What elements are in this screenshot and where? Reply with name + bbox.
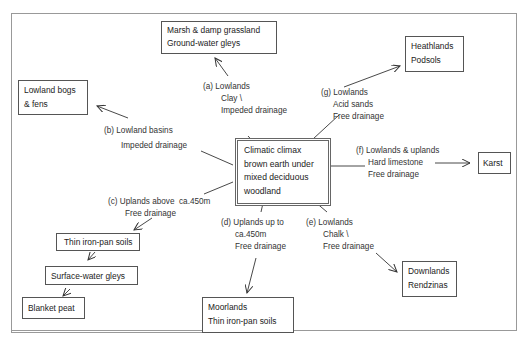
condition-line: Free drainage xyxy=(356,170,419,179)
condition-line: Free drainage xyxy=(306,242,374,251)
condition-line: Chalk xyxy=(306,230,344,239)
outcome-line: Karst xyxy=(483,155,505,171)
outcome-box-thin-iron-pan: Thin iron-pan soils xyxy=(56,233,140,251)
arrow-d-to-moorlands xyxy=(247,258,256,293)
branch-label-d: (d) Uplands up to ca.450m Free drainage xyxy=(221,217,286,253)
outcome-line: & fens xyxy=(24,97,82,111)
outcome-box-karst: Karst xyxy=(478,152,511,174)
outcome-box-heathlands: Heathlands Podsols xyxy=(405,36,464,72)
outcome-line: Rendzinas xyxy=(408,278,451,292)
outcome-line: Surface-water gleys xyxy=(51,269,132,283)
branch-label-g: (g) Lowlands Acid sands Free drainage xyxy=(321,87,384,123)
outcome-box-bogs: Lowland bogs & fens xyxy=(18,80,88,115)
center-line: Climatic climax xyxy=(244,144,322,158)
condition-line: Uplands up to xyxy=(233,218,284,227)
arrow-ironpan-to-gleys xyxy=(88,252,95,260)
condition-line: Impeded drainage xyxy=(104,141,187,150)
condition-line: Free drainage xyxy=(321,112,384,121)
arrow-a-to-marsh xyxy=(215,58,228,76)
outcome-box-blanket-peat: Blanket peat xyxy=(22,297,85,319)
condition-line: Free drainage xyxy=(221,242,286,251)
center-line: woodland xyxy=(244,185,322,199)
outcome-box-moorlands: Moorlands Thin iron-pan soils xyxy=(202,297,294,333)
outcome-line: Downlands xyxy=(408,264,451,278)
branch-marker: (b) xyxy=(104,126,114,135)
branch-label-b: (b) Lowland basins Impeded drainage xyxy=(104,123,187,153)
condition-line: Lowland basins xyxy=(116,126,172,135)
arrow-b-to-bogs xyxy=(97,106,128,118)
center-line: mixed deciduous xyxy=(244,171,322,185)
line-center-to-c xyxy=(204,182,233,194)
outcome-line: Thin iron-pan soils xyxy=(208,314,288,328)
branch-label-a: (a) Lowlands Clay \ Impeded drainage xyxy=(203,81,287,117)
condition-line: Lowlands xyxy=(333,88,368,97)
branch-marker: (f) xyxy=(356,146,364,155)
outcome-box-surface-water-gleys: Surface-water gleys xyxy=(45,266,138,285)
condition-line: Uplands above ca.450m xyxy=(120,197,211,206)
branch-marker: (g) xyxy=(321,88,331,97)
outcome-line: Ground-water gleys xyxy=(167,37,271,50)
outcome-line: Moorlands xyxy=(208,300,288,314)
arrow-gleys-to-peat xyxy=(63,289,70,296)
condition-line: Lowlands xyxy=(318,218,353,227)
branch-marker: (d) xyxy=(221,218,231,227)
condition-line: Lowlands & uplands xyxy=(366,146,439,155)
branch-label-c: (c) Uplands above ca.450m Free drainage xyxy=(108,196,210,220)
outcome-line: Heathlands xyxy=(411,39,458,53)
outcome-line: Podsols xyxy=(411,53,458,67)
condition-line: Lowlands xyxy=(215,82,250,91)
outcome-line: Thin iron-pan soils xyxy=(64,236,134,249)
outcome-line: Marsh & damp grassland xyxy=(167,24,271,37)
outcome-box-marsh: Marsh & damp grassland Ground-water gley… xyxy=(161,21,277,54)
outcome-line: Lowland bogs xyxy=(24,83,82,97)
condition-line: Hard limestone xyxy=(356,158,423,167)
outcome-line: Blanket peat xyxy=(28,300,79,316)
branch-marker: (a) xyxy=(203,82,213,91)
condition-line: Impeded drainage xyxy=(203,106,287,115)
branch-label-e: (e) Lowlands Chalk \ Free drainage xyxy=(306,217,374,253)
branch-marker: (c) xyxy=(108,197,118,206)
condition-line: Acid sands xyxy=(321,100,373,109)
line-center-to-b xyxy=(201,151,233,165)
arrow-e-to-downlands xyxy=(376,253,397,272)
arrow-g-to-heathlands xyxy=(344,66,400,87)
condition-line: ca.450m xyxy=(221,230,266,239)
outcome-box-downlands: Downlands Rendzinas xyxy=(402,261,457,297)
condition-line: Clay xyxy=(203,94,237,103)
center-box-climatic-climax: Climatic climax brown earth under mixed … xyxy=(235,138,331,206)
center-line: brown earth under xyxy=(244,158,322,172)
branch-marker: (e) xyxy=(306,218,316,227)
condition-line: Free drainage xyxy=(108,209,176,218)
branch-label-f: (f) Lowlands & uplands Hard limestone Fr… xyxy=(356,145,439,181)
